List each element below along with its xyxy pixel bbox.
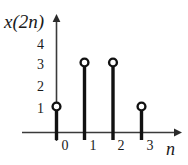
stem-marker-open-circle: [81, 59, 89, 67]
x-axis-arrow-icon: [174, 129, 182, 137]
x-axis-title: n: [166, 140, 175, 158]
y-tick-label-4: 4: [30, 38, 44, 52]
y-axis-arrow-icon: [53, 14, 61, 22]
x-tick-label-1: 1: [85, 139, 101, 153]
stem-n1: [81, 59, 89, 140]
y-tick-label-2: 2: [30, 80, 44, 94]
y-tick-label-3: 3: [30, 58, 44, 72]
stem-marker-open-circle: [138, 103, 146, 111]
stem-marker-open-circle: [53, 103, 61, 111]
y-axis-title: x(2n): [4, 12, 44, 31]
stem-plot-figure: x(2n) n 4 3 2 1 0 1 2 3: [0, 0, 188, 165]
stem-marker-open-circle: [109, 59, 117, 67]
stem-n3: [138, 103, 146, 140]
x-tick-label-0: 0: [57, 139, 73, 153]
y-tick-label-1: 1: [30, 102, 44, 116]
x-tick-label-3: 3: [142, 139, 158, 153]
x-tick-label-2: 2: [113, 139, 129, 153]
stem-n2: [109, 59, 117, 140]
stem-n0: [53, 103, 61, 140]
